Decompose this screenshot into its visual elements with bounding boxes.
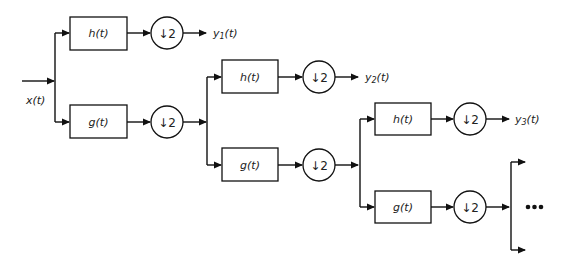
downsample-label: ↓2 [158,116,176,130]
output-label-y2: y2(t) [364,71,390,85]
ellipsis-dot [539,205,544,210]
input-label: x(t) [25,94,45,107]
output-label-y1: y1(t) [212,27,238,41]
stage-3: h(t) ↓2 y3(t) g(t) ↓2 [360,103,540,223]
highpass-filter-label: h(t) [89,27,109,40]
stage-2: h(t) ↓2 y2(t) g(t) ↓2 [207,60,390,181]
continuation [511,162,543,250]
downsample-label: ↓2 [461,113,479,127]
ellipsis-dot [532,205,537,210]
filter-bank-diagram: x(t) h(t) ↓2 y1(t) g(t) ↓2 h(t) ↓2 y2(t)… [0,0,563,261]
downsample-label: ↓2 [158,27,176,41]
lowpass-filter-label: g(t) [240,159,260,172]
downsample-label: ↓2 [310,159,328,173]
downsample-label: ↓2 [310,71,328,85]
lowpass-filter-label: g(t) [393,201,413,214]
lowpass-filter-label: g(t) [89,116,109,129]
highpass-filter-label: h(t) [393,113,413,126]
highpass-filter-label: h(t) [240,71,260,84]
ellipsis-dot [526,205,531,210]
downsample-label: ↓2 [461,201,479,215]
output-label-y3: y3(t) [514,113,540,127]
